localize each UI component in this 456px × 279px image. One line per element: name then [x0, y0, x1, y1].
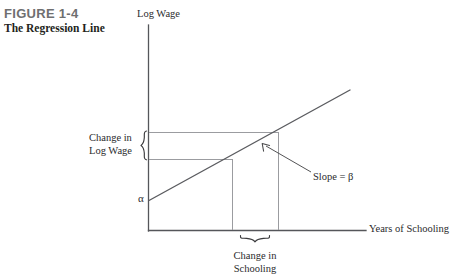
intercept-label: α [138, 192, 144, 205]
regression-diagram [0, 0, 456, 279]
slope-label: Slope = β [313, 171, 353, 184]
slope-leader-line [266, 146, 311, 172]
change-in-schooling-line-2: Schooling [214, 262, 296, 275]
x-axis-label: Years of Schooling [369, 223, 449, 236]
change-in-log-wage-line-1: Change in [89, 131, 132, 144]
change-in-schooling-label: Change in Schooling [214, 249, 296, 275]
change-in-log-wage-label: Change in Log Wage [89, 131, 132, 157]
brace-change-in-log-wage [141, 131, 147, 160]
figure-container: FIGURE 1-4 The Regression Line Log Wage … [0, 0, 456, 279]
change-in-schooling-line-1: Change in [214, 249, 296, 262]
y-axis-label: Log Wage [137, 8, 180, 21]
change-in-log-wage-line-2: Log Wage [89, 144, 132, 157]
brace-change-in-schooling [240, 236, 269, 242]
regression-line [149, 90, 350, 201]
